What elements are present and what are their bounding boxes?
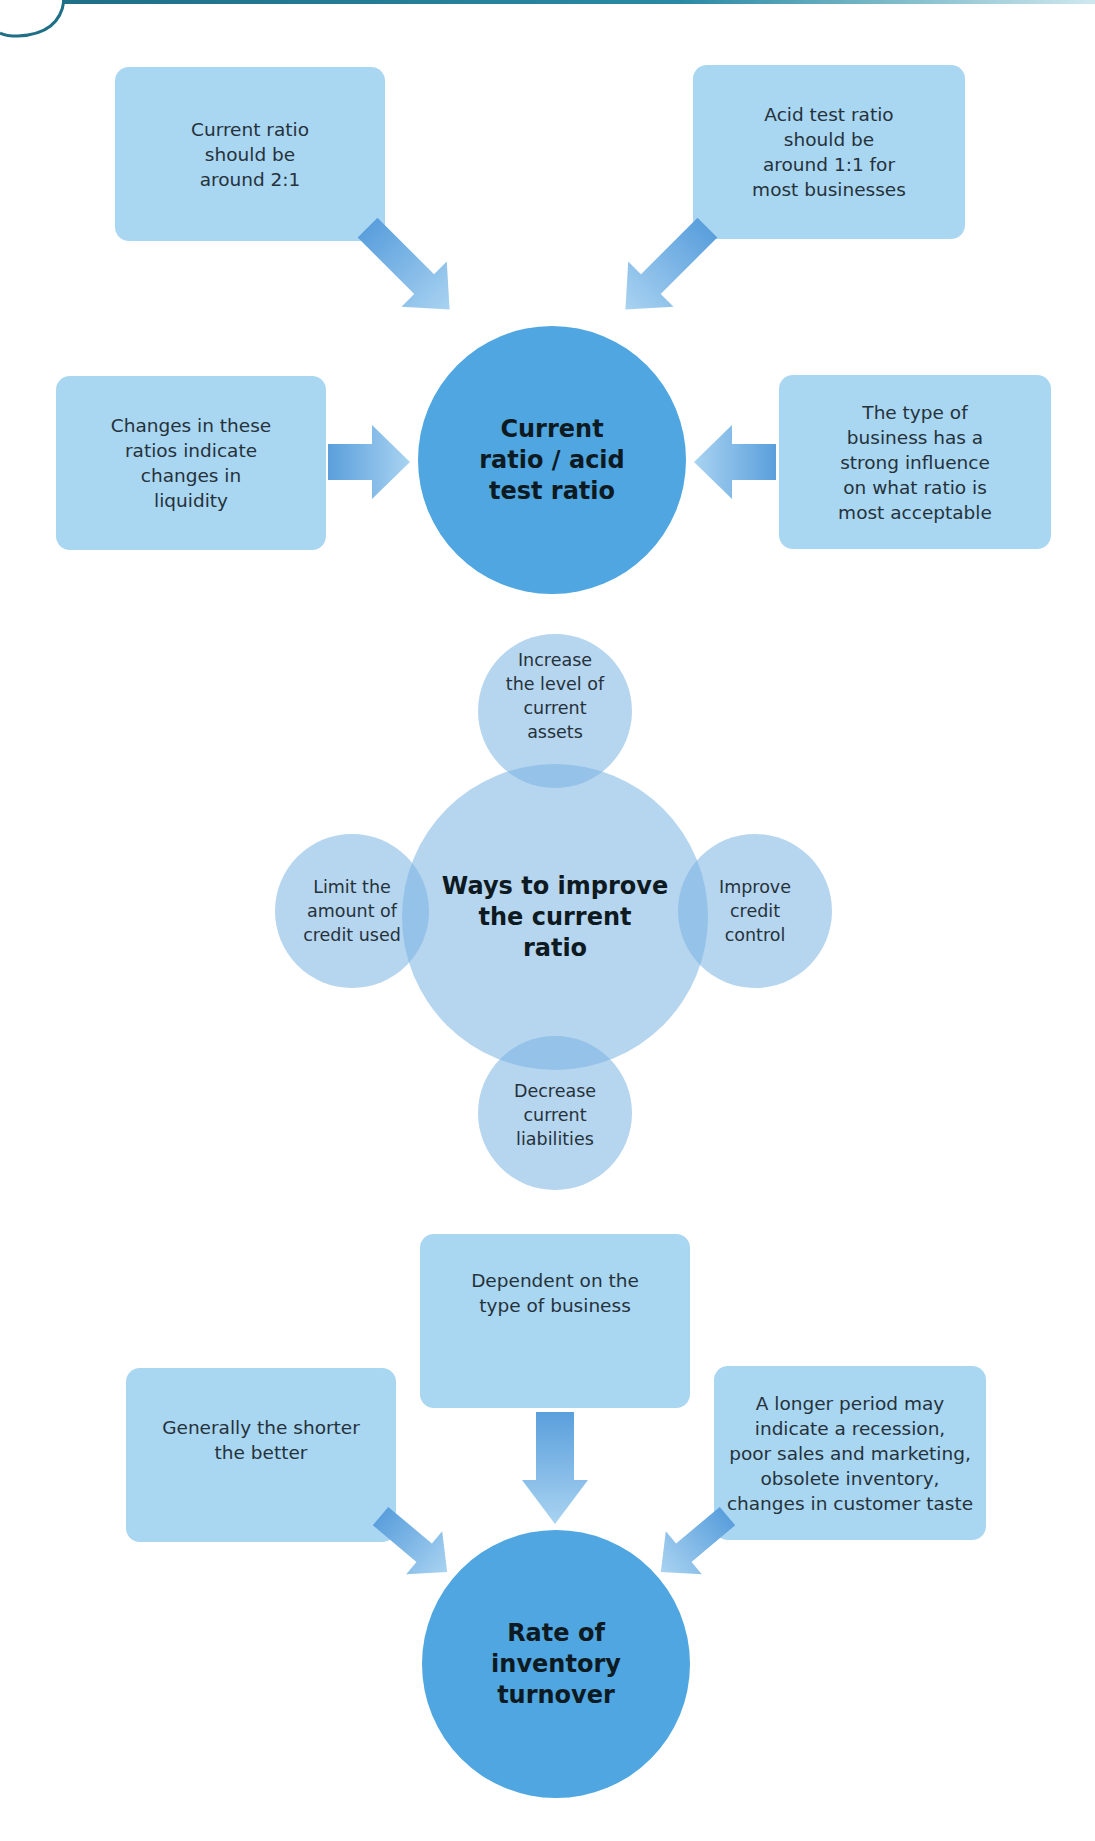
box-text: The type of business has a strong influe…	[838, 400, 992, 525]
bubble-text: Decrease current liabilities	[514, 1079, 596, 1151]
box-shorter-the-better: Generally the shorter the better	[126, 1368, 396, 1542]
arrow-down-left-icon	[648, 1500, 738, 1590]
bubble-limit-credit-used: Limit the amount of credit used	[275, 834, 429, 988]
arrow-right-icon	[328, 425, 414, 499]
bubble-text: Limit the amount of credit used	[303, 875, 401, 947]
hub-current-acid-test-ratio: Current ratio / acid test ratio	[418, 326, 686, 594]
box-text: A longer period may indicate a recession…	[727, 1391, 973, 1516]
hub-rate-of-inventory-turnover: Rate of inventory turnover	[422, 1530, 690, 1798]
box-text: Acid test ratio should be around 1:1 for…	[752, 102, 906, 202]
corner-curve-decoration	[0, 0, 80, 60]
box-dependent-on-business-type: Dependent on the type of business	[420, 1234, 690, 1408]
arrow-down-icon	[522, 1412, 588, 1526]
hub-label: Rate of inventory turnover	[491, 1618, 621, 1711]
box-current-ratio-target: Current ratio should be around 2:1	[115, 67, 385, 241]
box-changes-liquidity: Changes in these ratios indicate changes…	[56, 376, 326, 550]
bubble-improve-credit-control: Improve credit control	[678, 834, 832, 988]
arrow-down-left-icon	[605, 210, 725, 330]
box-text: Dependent on the type of business	[471, 1268, 639, 1318]
bubble-center-ways-to-improve: Ways to improve the current ratio	[402, 764, 708, 1070]
box-text: Current ratio should be around 2:1	[191, 117, 309, 192]
arrow-down-right-icon	[350, 210, 470, 330]
bubble-increase-current-assets: Increase the level of current assets	[478, 634, 632, 788]
box-text: Changes in these ratios indicate changes…	[111, 413, 271, 513]
center-label: Ways to improve the current ratio	[442, 871, 668, 964]
arrow-left-icon	[690, 425, 776, 499]
hub-label: Current ratio / acid test ratio	[479, 414, 625, 507]
bubble-decrease-current-liabilities: Decrease current liabilities	[478, 1036, 632, 1190]
box-type-of-business: The type of business has a strong influe…	[779, 375, 1051, 549]
box-text: Generally the shorter the better	[162, 1415, 360, 1465]
box-acid-test-target: Acid test ratio should be around 1:1 for…	[693, 65, 965, 239]
header-rule	[62, 0, 1095, 4]
arrow-down-right-icon	[370, 1500, 460, 1590]
bubble-text: Increase the level of current assets	[506, 648, 604, 744]
box-longer-period-indicates: A longer period may indicate a recession…	[714, 1366, 986, 1540]
bubble-text: Improve credit control	[719, 875, 791, 947]
